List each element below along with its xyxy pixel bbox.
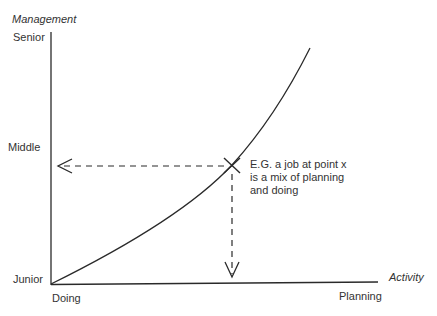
x-start-label: Doing <box>52 292 81 305</box>
x-axis-line <box>51 282 378 285</box>
annotation-line-2: is a mix of planning <box>250 171 360 184</box>
point-x-annotation: E.G. a job at point x is a mix of planni… <box>250 158 360 197</box>
annotation-line-1: E.G. a job at point x <box>250 158 360 171</box>
level-junior-label: Junior <box>13 273 43 286</box>
x-end-label: Planning <box>339 290 382 303</box>
point-x-marker-icon <box>224 158 240 173</box>
level-middle-label: Middle <box>8 141 40 154</box>
level-senior-label: Senior <box>13 31 45 44</box>
annotation-line-3: and doing <box>250 184 360 197</box>
x-axis-title: Activity <box>389 271 424 284</box>
y-axis-title: Management <box>12 13 76 26</box>
diagram-canvas <box>0 0 437 316</box>
